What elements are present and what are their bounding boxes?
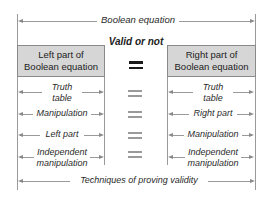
right-row1-arrow-right-icon [249, 90, 254, 94]
left-row3-arrow-right-icon [99, 133, 104, 137]
left-row4-arrow-left-icon [18, 155, 23, 159]
outer-right-line [255, 14, 256, 190]
left-box-line1: Left part of [38, 49, 83, 61]
left-row3-label: Left part [40, 129, 84, 140]
left-box-line2: Boolean equation [24, 61, 98, 73]
left-row4-label: Independent manipulation [34, 147, 90, 168]
right-row4-label: Independent manipulation [185, 147, 241, 168]
right-row1-arrow-left-icon [168, 90, 173, 94]
equals-row3-icon [128, 132, 142, 142]
left-row3-arrow-left-icon [18, 133, 23, 137]
bold-equals-icon [129, 61, 143, 72]
right-row3-arrow-left-icon [168, 133, 173, 137]
top-arrow-left-icon [18, 19, 23, 23]
right-row2-arrow-left-icon [168, 112, 173, 116]
right-row1-label: Truth table [193, 82, 233, 103]
right-box-line2: Boolean equation [175, 61, 249, 73]
left-row4-arrow-right-icon [99, 155, 104, 159]
left-inner-line [104, 77, 105, 165]
right-row4-arrow-left-icon [168, 155, 173, 159]
right-part-box: Right part of Boolean equation [167, 45, 256, 77]
left-row2-arrow-left-icon [18, 112, 23, 116]
bottom-arrow-left-icon [18, 179, 23, 183]
right-row3-arrow-right-icon [249, 133, 254, 137]
equals-row2-icon [128, 111, 142, 121]
top-arrow-right-icon [250, 19, 255, 23]
right-row2-arrow-right-icon [249, 112, 254, 116]
top-label: Boolean equation [97, 15, 179, 26]
valid-or-not-label: Valid or not [105, 36, 167, 47]
left-part-box: Left part of Boolean equation [17, 45, 105, 77]
left-row1-label: Truth table [42, 82, 82, 103]
outer-left-line [17, 14, 18, 190]
right-box-line1: Right part of [186, 49, 238, 61]
left-row1-arrow-right-icon [99, 90, 104, 94]
left-row2-label: Manipulation [33, 108, 91, 119]
right-row3-label: Manipulation [184, 129, 242, 140]
bottom-label: Techniques of proving validity [70, 175, 208, 186]
equals-row1-icon [128, 90, 142, 100]
right-row4-arrow-right-icon [249, 155, 254, 159]
left-row2-arrow-right-icon [99, 112, 104, 116]
bottom-arrow-right-icon [250, 179, 255, 183]
right-row2-label: Right part [189, 108, 237, 119]
equals-row4-icon [128, 151, 142, 161]
left-row1-arrow-left-icon [18, 90, 23, 94]
